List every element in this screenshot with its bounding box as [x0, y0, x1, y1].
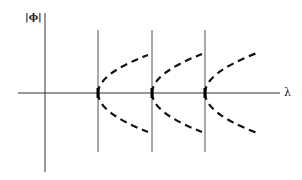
bifurcation-group	[98, 30, 257, 152]
upper-branch-2	[152, 54, 202, 93]
x-axis-label: λ	[284, 87, 291, 98]
upper-branch-3	[205, 53, 257, 93]
lower-branch-2	[152, 93, 202, 132]
bifurcation-diagram	[0, 0, 302, 180]
y-axis-label: |ϕ|	[25, 12, 42, 22]
upper-branch-1	[98, 55, 148, 93]
lower-branch-3	[205, 93, 257, 133]
lower-branch-1	[98, 93, 148, 132]
